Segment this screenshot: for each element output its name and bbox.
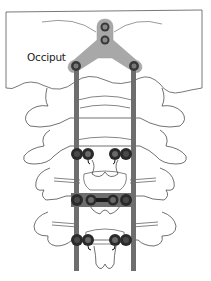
occipitocervical-fusion-diagram: [0, 0, 211, 281]
plate-connector-right: [129, 61, 139, 71]
vertebra-c1: [25, 88, 184, 127]
screw-level-1: [71, 148, 132, 164]
plate-connector-left: [71, 61, 81, 71]
plate-screw-lower: [101, 36, 110, 45]
c2-spinous: [92, 160, 118, 177]
screw-level-3: [71, 234, 132, 250]
occiput-label: Occiput: [27, 51, 66, 63]
vertebra-c2: [24, 130, 187, 164]
plate-screw-upper: [101, 23, 110, 32]
c4-spinous: [94, 246, 116, 269]
screw-level-2-cross-connector: [71, 193, 132, 207]
